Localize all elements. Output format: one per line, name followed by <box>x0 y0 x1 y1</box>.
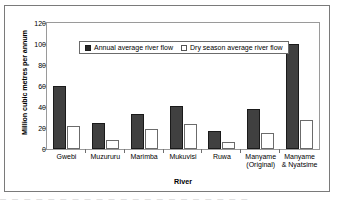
legend-swatch-open-icon <box>181 45 187 51</box>
bar-dry-season-flow <box>300 120 313 149</box>
bar-dry-season-flow <box>145 129 158 149</box>
bar-annual-flow <box>53 86 66 149</box>
x-axis-tick-label: Marimba <box>125 153 164 170</box>
x-axis-tick-label: Mukuvisi <box>164 153 203 170</box>
bar-annual-flow <box>170 106 183 149</box>
bar-annual-flow <box>247 109 260 149</box>
bar-dry-season-flow <box>184 124 197 149</box>
cut-off-caption: — — — — — — — — — — — — — — — — — — — — … <box>0 196 337 204</box>
bar-annual-flow <box>92 123 105 149</box>
bar-dry-season-flow <box>106 140 119 149</box>
bar-dry-season-flow <box>261 133 274 149</box>
bar-dry-season-flow <box>222 142 235 149</box>
legend-swatch-filled-icon <box>85 45 91 51</box>
legend-label: Annual average river flow <box>94 44 173 51</box>
x-axis-tick-label: Muzururu <box>86 153 125 170</box>
bar-dry-season-flow <box>67 126 80 149</box>
x-axis-tick-label: Gwebi <box>47 153 86 170</box>
x-axis-title: River <box>46 177 320 186</box>
chart-legend: Annual average river flowDry season aver… <box>79 41 289 54</box>
x-axis-tick-labels: GwebiMuzururuMarimbaMukuvisiRuwaManyame … <box>47 153 319 170</box>
bar-annual-flow <box>286 44 299 149</box>
chart-figure: Million cubic metres per annum 020406080… <box>0 0 337 204</box>
x-axis-tick-label: Manyame & Nyatsime <box>280 153 319 170</box>
legend-entry: Annual average river flow <box>85 44 173 51</box>
x-axis-tick-label: Manyame (Original) <box>241 153 280 170</box>
bar-annual-flow <box>208 131 221 149</box>
bar-annual-flow <box>131 114 144 149</box>
x-axis-tick-label: Ruwa <box>202 153 241 170</box>
legend-entry: Dry season average river flow <box>181 44 283 51</box>
legend-label: Dry season average river flow <box>190 44 283 51</box>
